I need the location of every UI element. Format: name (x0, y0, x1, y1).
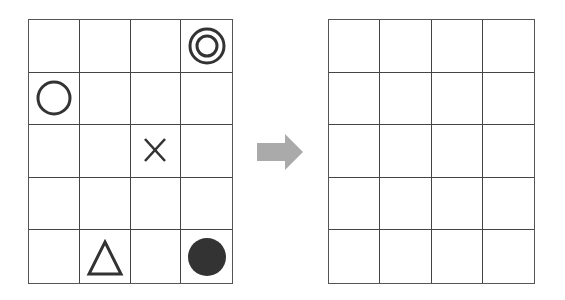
target-cell-r3-c3 (483, 178, 534, 231)
source-cell-r1-c2 (131, 73, 182, 126)
source-cell-r4-c2 (131, 230, 182, 283)
source-cell-r4-c0 (29, 230, 80, 283)
target-cell-r1-c1 (380, 73, 431, 126)
target-cell-r0-c1 (380, 20, 431, 73)
circle-icon (32, 76, 76, 120)
target-cell-r2-c2 (432, 125, 483, 178)
source-cell-r3-c3 (181, 178, 232, 231)
source-cell-r2-c0 (29, 125, 80, 178)
target-cell-r2-c3 (483, 125, 534, 178)
target-cell-r0-c2 (432, 20, 483, 73)
target-cell-r2-c0 (329, 125, 380, 178)
target-cell-r3-c1 (380, 178, 431, 231)
source-cell-r1-c3 (181, 73, 232, 126)
source-cell-r3-c1 (80, 178, 131, 231)
source-cell-r2-c3 (181, 125, 232, 178)
source-cell-r0-c3 (181, 20, 232, 73)
target-cell-r1-c0 (329, 73, 380, 126)
right-arrow-icon (257, 134, 303, 170)
source-cell-r3-c0 (29, 178, 80, 231)
source-cell-r0-c2 (131, 20, 182, 73)
source-cell-r0-c0 (29, 20, 80, 73)
target-cell-r1-c2 (432, 73, 483, 126)
target-cell-r4-c2 (432, 230, 483, 283)
target-cell-r4-c3 (483, 230, 534, 283)
target-cell-r3-c2 (432, 178, 483, 231)
target-cell-r1-c3 (483, 73, 534, 126)
source-cell-r2-c1 (80, 125, 131, 178)
source-cell-r1-c1 (80, 73, 131, 126)
cross-icon (133, 129, 177, 173)
source-cell-r4-c3 (181, 230, 232, 283)
source-cell-r1-c0 (29, 73, 80, 126)
double-circle-icon (185, 24, 229, 68)
target-grid (328, 19, 535, 284)
source-cell-r2-c2 (131, 125, 182, 178)
target-cell-r2-c1 (380, 125, 431, 178)
target-cell-r4-c1 (380, 230, 431, 283)
target-cell-r0-c3 (483, 20, 534, 73)
source-cell-r0-c1 (80, 20, 131, 73)
source-cell-r3-c2 (131, 178, 182, 231)
source-cell-r4-c1 (80, 230, 131, 283)
triangle-icon (83, 235, 127, 279)
target-cell-r4-c0 (329, 230, 380, 283)
source-grid (28, 19, 233, 284)
target-cell-r3-c0 (329, 178, 380, 231)
filled-circle-icon (185, 235, 229, 279)
target-cell-r0-c0 (329, 20, 380, 73)
